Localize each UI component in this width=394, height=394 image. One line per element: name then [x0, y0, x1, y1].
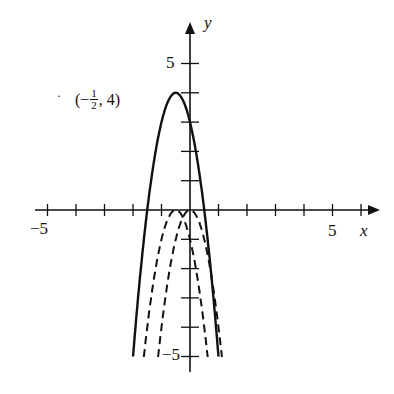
vertex-annotation: (− 1 2 , 4)	[75, 88, 120, 111]
chart: y x −5 5 5 −5 · (− 1 2 , 4)	[0, 0, 394, 394]
vertex-fraction: 1 2	[90, 88, 98, 111]
fraction-denominator: 2	[91, 100, 97, 111]
curve-1	[144, 210, 208, 357]
x-min-tick-label: −5	[30, 220, 48, 237]
vertex-close: , 4)	[99, 92, 120, 108]
y-max-tick-label: 5	[166, 54, 175, 71]
y-axis-label: y	[204, 14, 212, 31]
vertex-open: (−	[75, 92, 89, 108]
x-max-tick-label: 5	[328, 222, 337, 239]
plot-area	[0, 0, 394, 394]
vertex-dot: ·	[57, 90, 61, 102]
x-axis-label: x	[360, 222, 368, 239]
y-min-tick-label: −5	[162, 346, 180, 363]
curve-0	[133, 93, 219, 357]
